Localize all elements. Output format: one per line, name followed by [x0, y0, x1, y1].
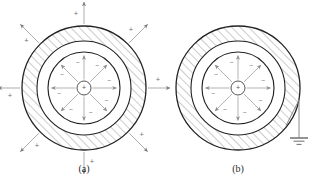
external-field-arrow: [20, 24, 38, 42]
induced-negative-charge-label: −: [229, 59, 233, 66]
induced-negative-charge-label: −: [223, 106, 227, 113]
induced-negative-charge-label: −: [107, 77, 111, 84]
induced-negative-charge-label: −: [249, 62, 253, 69]
figure-canvas: −−−−−−−−+++++++++−−−−−−−−+ (a)(b): [0, 0, 317, 183]
outer-positive-charge-label: +: [8, 91, 13, 100]
panel-a-caption: (a): [78, 163, 89, 175]
induced-negative-charge-label: −: [214, 71, 218, 78]
induced-negative-charge-label: −: [75, 59, 79, 66]
induced-negative-charge-label: −: [211, 90, 215, 97]
outer-positive-charge-label: +: [35, 141, 40, 150]
induced-negative-charge-label: −: [242, 109, 246, 116]
outer-positive-charge-label: +: [139, 130, 144, 139]
induced-negative-charge-label: −: [69, 106, 73, 113]
panel-b: −−−−−−−−+: [176, 26, 308, 150]
electrostatics-figure: −−−−−−−−+++++++++−−−−−−−−+ (a)(b): [0, 0, 317, 183]
induced-negative-charge-label: −: [60, 71, 64, 78]
panel-a: −−−−−−−−+++++++++: [0, 2, 170, 174]
outer-positive-charge-label: +: [129, 25, 134, 34]
central-positive-charge-label: +: [82, 84, 86, 91]
induced-negative-charge-label: −: [57, 90, 61, 97]
outer-positive-charge-label: +: [74, 9, 79, 18]
induced-negative-charge-label: −: [88, 109, 92, 116]
induced-negative-charge-label: −: [104, 97, 108, 104]
induced-negative-charge-label: −: [95, 62, 99, 69]
induced-negative-charge-label: −: [261, 77, 265, 84]
outer-positive-charge-label: +: [24, 36, 29, 45]
outer-positive-charge-label: +: [156, 75, 161, 84]
central-positive-charge-label: +: [236, 84, 240, 91]
induced-negative-charge-label: −: [258, 97, 262, 104]
outer-positive-charge-label: +: [90, 157, 95, 166]
panel-b-caption: (b): [232, 163, 244, 175]
